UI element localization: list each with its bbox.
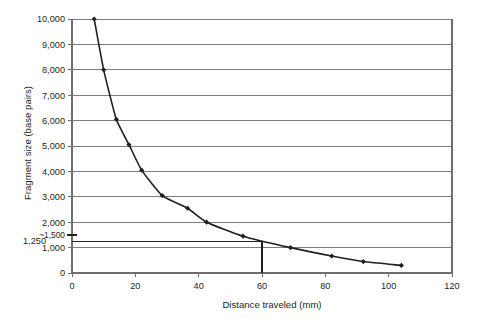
data-point-104mm-300bp [399, 263, 404, 268]
y-tick-label-6000: 6,000 [42, 116, 65, 126]
data-point-14mm-6050bp [114, 117, 119, 122]
y-extra-label-1250: 1,250 [23, 236, 46, 246]
x-tick-label-60: 60 [257, 281, 267, 291]
reference-lines [72, 241, 262, 273]
data-point-7mm-10000bp [92, 16, 97, 21]
series-line-dna-ladder [94, 19, 401, 265]
data-point-54mm-1450bp [240, 234, 245, 239]
x-tick-label-40: 40 [194, 281, 204, 291]
y-tick-label-9000: 9,000 [42, 40, 65, 50]
y-tick-label-4000: 4,000 [42, 167, 65, 177]
data-series-curve [94, 19, 401, 265]
chart-container: 01,0002,0003,0004,0005,0006,0007,0008,00… [0, 0, 484, 319]
data-point-82mm-670bp [329, 253, 334, 258]
x-tick-label-100: 100 [381, 281, 396, 291]
data-series-markers [92, 16, 404, 268]
data-point-10mm-8000bp [101, 67, 106, 72]
x-tick-label-120: 120 [444, 281, 459, 291]
x-axis-ticks [72, 273, 452, 277]
y-tick-label-7000: 7,000 [42, 91, 65, 101]
y-tick-label-8000: 8,000 [42, 65, 65, 75]
y-tick-label-2000: 2,000 [42, 218, 65, 228]
x-axis-title: Distance traveled (mm) [222, 299, 321, 310]
data-point-69mm-1000bp [288, 245, 293, 250]
x-axis-tick-labels: 020406080100120 [69, 281, 459, 291]
data-point-92mm-450bp [361, 259, 366, 264]
y-tick-label-10000: 10,000 [37, 14, 65, 24]
y-axis-title: Fragment size (base pairs) [22, 86, 33, 200]
y-tick-label-3000: 3,000 [42, 192, 65, 202]
plot-gridlines [72, 19, 452, 248]
x-tick-label-20: 20 [130, 281, 140, 291]
y-tick-label-0: 0 [60, 268, 65, 278]
x-tick-label-80: 80 [320, 281, 330, 291]
x-tick-label-0: 0 [69, 281, 74, 291]
standard-curve-chart: 01,0002,0003,0004,0005,0006,0007,0008,00… [0, 0, 484, 319]
y-tick-label-5000: 5,000 [42, 141, 65, 151]
